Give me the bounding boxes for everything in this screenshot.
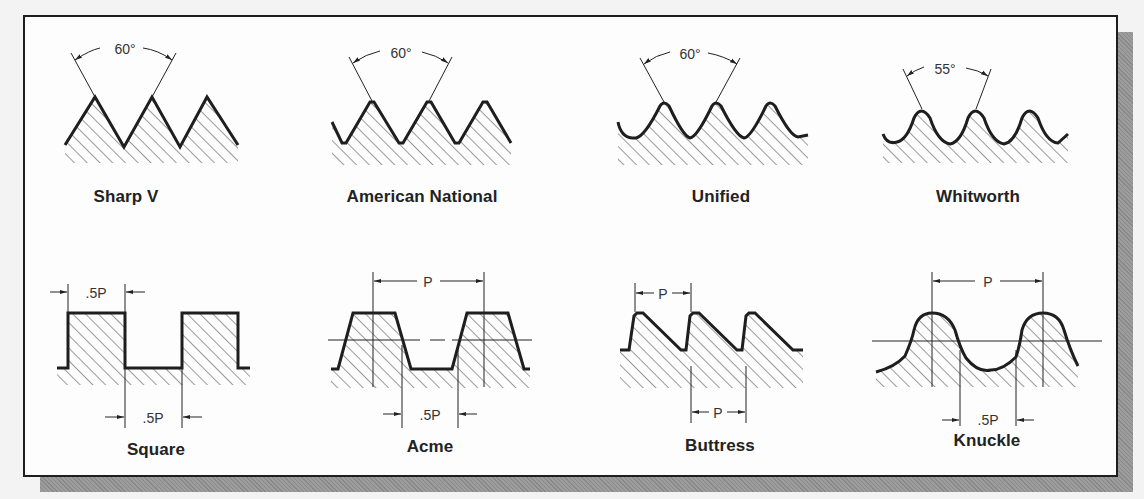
whitworth-thread (883, 67, 1068, 163)
thread-forms-drawing (0, 0, 1144, 499)
unified-angle-label: 60° (678, 47, 701, 61)
sharp-v-label: Sharp V (94, 187, 159, 207)
acme-top-dimension: P (422, 275, 433, 289)
buttress-label: Buttress (685, 436, 755, 456)
knuckle-label: Knuckle (954, 431, 1021, 451)
american-national-angle-label: 60° (389, 46, 412, 60)
square-bottom-dimension: .5P (141, 411, 164, 425)
unified-label: Unified (692, 187, 750, 207)
sharp-v-thread (65, 48, 238, 163)
buttress-bottom-dimension: P (712, 406, 723, 420)
buttress-thread (620, 283, 803, 423)
square-top-dimension: .5P (84, 286, 107, 300)
whitworth-label: Whitworth (936, 187, 1020, 207)
unified-thread (618, 52, 808, 165)
knuckle-thread (872, 272, 1102, 426)
acme-thread (328, 272, 532, 428)
square-label: Square (127, 440, 185, 460)
knuckle-top-dimension: P (982, 275, 993, 289)
sharp-v-angle-label: 60° (113, 42, 136, 56)
whitworth-angle-label: 55° (933, 62, 956, 76)
square-thread (50, 284, 250, 428)
acme-label: Acme (407, 437, 454, 457)
knuckle-bottom-dimension: .5P (976, 413, 999, 427)
acme-bottom-dimension: .5P (418, 408, 441, 422)
american-national-label: American National (347, 187, 498, 207)
american-national-thread (332, 51, 511, 165)
buttress-top-dimension: P (657, 287, 668, 301)
